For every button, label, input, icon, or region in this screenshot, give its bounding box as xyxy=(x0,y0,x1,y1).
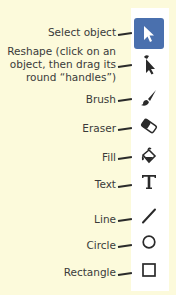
paint-bucket-icon xyxy=(140,147,158,164)
arrow-cursor-icon xyxy=(142,25,156,43)
select-tool-button[interactable] xyxy=(134,18,164,49)
reshape-cursor-icon xyxy=(141,53,157,75)
reshape-leader-line xyxy=(118,64,132,67)
rectangle-tool-button[interactable] xyxy=(134,256,164,284)
eraser-leader-line xyxy=(118,127,132,130)
brush-label: Brush xyxy=(86,93,116,106)
line-label: Line xyxy=(94,213,116,226)
reshape-label-line-3: round “handles”) xyxy=(7,71,116,84)
circle-label: Circle xyxy=(87,239,117,252)
fill-tool-button[interactable] xyxy=(134,141,164,169)
line-icon xyxy=(141,208,157,224)
eraser-tool-button[interactable] xyxy=(134,112,164,140)
circle-icon xyxy=(141,234,157,250)
reshape-tool-button[interactable] xyxy=(134,50,164,78)
reshape-label-line-1: Reshape (click on an xyxy=(7,45,116,58)
line-leader-line xyxy=(118,218,132,221)
eraser-icon xyxy=(140,118,158,134)
eraser-label: Eraser xyxy=(82,122,116,135)
circle-leader-line xyxy=(118,244,132,247)
line-tool-button[interactable] xyxy=(134,202,164,230)
brush-leader-line xyxy=(118,98,132,101)
brush-icon xyxy=(140,89,158,107)
fill-leader-line xyxy=(118,156,132,159)
text-leader-line xyxy=(118,184,132,187)
rectangle-icon xyxy=(141,262,157,278)
text-T-icon xyxy=(141,174,157,190)
reshape-label-line-2: object, then drag its xyxy=(7,58,116,71)
reshape-label: Reshape (click on an object, then drag i… xyxy=(7,45,116,84)
select-leader-line xyxy=(118,32,132,35)
rectangle-leader-line xyxy=(118,272,132,275)
select-label: Select object xyxy=(48,26,116,39)
text-tool-button[interactable] xyxy=(134,168,164,196)
brush-tool-button[interactable] xyxy=(134,84,164,112)
text-label: Text xyxy=(95,178,116,191)
rectangle-label: Rectangle xyxy=(64,266,116,279)
fill-label: Fill xyxy=(102,151,116,164)
circle-tool-button[interactable] xyxy=(134,228,164,256)
